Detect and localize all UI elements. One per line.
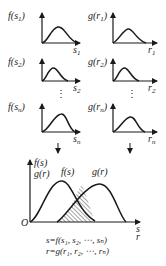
plot-g-r1: g(r1) r1	[88, 10, 157, 57]
origin-label: O	[21, 217, 28, 228]
equation-r: r=g(r₁, r₂, ⋯, rₙ)	[46, 246, 109, 256]
y-axis-label: f(sn)	[8, 101, 26, 114]
vertical-ellipsis-right: ⋮	[127, 88, 137, 99]
plot-f-s1: f(s1) s1	[8, 10, 80, 57]
plot-g-rn: g(rn) rn	[88, 101, 157, 146]
curve-label-g-r: g(r)	[92, 166, 108, 178]
distribution-curve	[42, 68, 68, 81]
distribution-curve	[113, 68, 139, 81]
curve-label-f-s: f(s)	[61, 166, 75, 178]
y-axis-label: g(rn)	[88, 101, 108, 114]
y-axis-label-bottom: g(r)	[34, 168, 50, 180]
interference-diagram: f(s1) s1 g(r1) r1 f(s2) s2 g(r2) r2 ⋮ ⋮ …	[0, 0, 166, 266]
distribution-curve	[42, 27, 78, 43]
y-axis-label: f(s1)	[8, 10, 26, 23]
x-axis-label-bottom: r	[136, 231, 140, 242]
x-axis-label: rn	[148, 133, 156, 146]
y-axis-label: f(s2)	[8, 56, 26, 69]
distribution-curve	[113, 29, 146, 43]
x-axis-label: s1	[73, 44, 80, 57]
distribution-curve	[113, 117, 145, 132]
x-axis-label: r2	[148, 82, 156, 95]
vertical-ellipsis-left: ⋮	[56, 88, 66, 99]
y-axis-label: g(r2)	[88, 56, 108, 69]
x-axis-label: s2	[73, 82, 81, 95]
distribution-curve	[42, 114, 75, 132]
main-interference-plot: f(s) g(r) f(s) g(r) O s r	[21, 157, 140, 242]
equation-s: s=f(s₁, s₂, ⋯, sₙ)	[46, 235, 107, 245]
plot-f-s2: f(s2) s2	[8, 56, 81, 95]
y-axis-label: g(r1)	[88, 10, 108, 23]
x-axis-label: sn	[73, 133, 81, 146]
plot-f-sn: f(sn) sn	[8, 101, 81, 146]
plot-g-r2: g(r2) r2	[88, 56, 157, 95]
x-axis-label: r1	[148, 44, 155, 57]
